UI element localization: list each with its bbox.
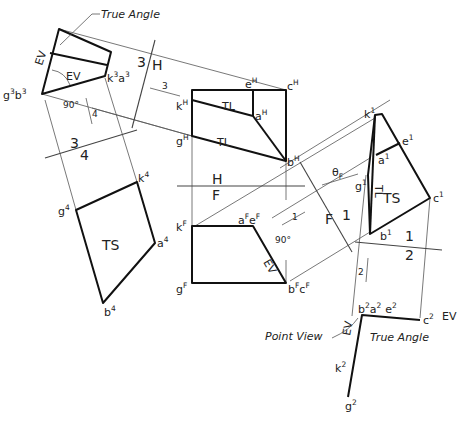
label-c1: c1 — [433, 190, 444, 205]
label-a1: a1 — [378, 152, 390, 167]
fold-34-label-3: 3 — [70, 135, 79, 151]
arrow-label-4: 4 — [92, 109, 98, 119]
label-k4: k4 — [138, 170, 149, 185]
label-b1: b1 — [380, 228, 392, 243]
ev-label-3b: EV — [32, 49, 49, 67]
view-1: TS TL k1 e1 a1 g1 c1 b1 2 — [355, 106, 444, 282]
ts-label-4: TS — [101, 237, 120, 253]
label-c2: c2 — [423, 312, 434, 327]
label-b2a2e2: b2a2e2 — [358, 301, 397, 316]
label-bH: bH — [287, 154, 300, 169]
label-gF: gF — [176, 281, 187, 296]
label-k2: k2 — [335, 360, 346, 375]
label-g2: g2 — [345, 398, 357, 413]
label-bFcF: bFcF — [288, 281, 310, 296]
tl-label-1: TL — [221, 100, 236, 113]
fold-12-label-2: 2 — [405, 247, 414, 263]
label-b4: b4 — [104, 304, 116, 319]
descriptive-geometry-drawing: True Angle EV EV 90° g3b3 k3a3 4 3 H 3 4… — [0, 0, 459, 421]
label-k3a3: k3a3 — [107, 70, 130, 85]
fold-3H-label-H: H — [152, 57, 163, 73]
label-gH: gH — [176, 133, 189, 148]
label-g3b3: g3b3 — [3, 87, 27, 102]
view-2: EV EV Point View True Angle b2a2e2 c2 k2… — [265, 301, 457, 413]
view-4: TS k4 g4 a4 b4 — [58, 170, 169, 319]
ev-label-2b: EV — [340, 320, 355, 337]
arrow-label-3: 3 — [162, 81, 168, 91]
fold-HF-label-H: H — [212, 171, 223, 187]
fold-line-1-2 — [355, 242, 442, 250]
true-angle-label-bottom: True Angle — [370, 331, 429, 344]
label-kH: kH — [176, 98, 188, 113]
view-H: TL TL 3 eH cH kH aH gH bH — [150, 76, 300, 169]
fold-12-label-1: 1 — [405, 228, 414, 244]
label-a4: a4 — [157, 235, 169, 250]
fold-34-label-4: 4 — [80, 147, 89, 163]
theta-f-label: θF — [332, 166, 343, 181]
ninety-label-3: 90° — [63, 100, 79, 110]
fold-3H-label-3: 3 — [137, 54, 146, 70]
ev-label-3: EV — [66, 70, 81, 83]
ev-label-2: EV — [442, 310, 457, 323]
fold-line-3-4 — [45, 130, 137, 158]
fold-F1-label-F: F — [325, 211, 333, 227]
tl-label-view1: TL — [372, 184, 385, 199]
label-aFeF: aFeF — [238, 212, 260, 227]
true-angle-label-top: True Angle — [101, 8, 160, 21]
fold-F1-label-1: 1 — [342, 207, 351, 223]
fold-HF-label-F: F — [212, 187, 220, 203]
label-g1: g1 — [355, 178, 367, 193]
arrow-label-2: 2 — [358, 267, 364, 277]
ev-label-F: EV — [260, 257, 279, 276]
ninety-label-F: 90° — [275, 235, 291, 245]
label-aH: aH — [255, 108, 267, 123]
arrow-label-1: 1 — [292, 212, 298, 222]
tl-label-2: TL — [216, 136, 231, 149]
label-cH: cH — [287, 78, 299, 93]
label-e1: e1 — [402, 133, 414, 148]
label-kF: kF — [176, 219, 187, 234]
label-eH: eH — [245, 76, 257, 91]
view-F: EV 90° kF aFeF gF bFcF 1 — [176, 212, 310, 296]
point-view-label: Point View — [265, 330, 323, 343]
label-g4: g4 — [58, 203, 70, 218]
